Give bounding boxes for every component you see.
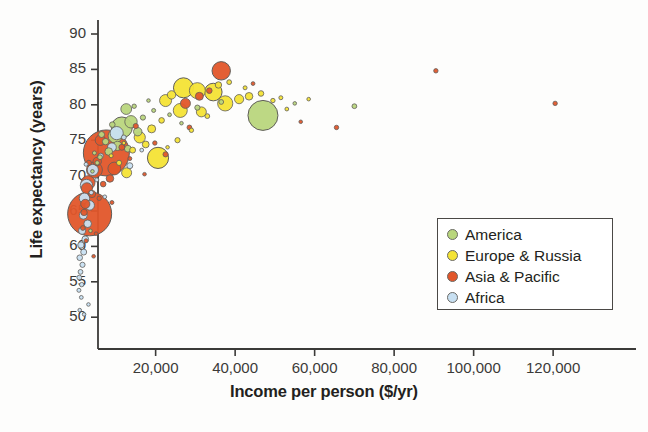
data-bubble — [142, 141, 149, 148]
data-bubble — [219, 100, 224, 105]
data-bubble — [95, 161, 99, 165]
data-bubble — [116, 160, 121, 165]
data-bubble — [553, 101, 557, 105]
data-bubble — [97, 196, 101, 200]
data-bubble — [100, 181, 106, 187]
data-bubble — [212, 62, 230, 80]
data-bubble — [84, 162, 88, 166]
data-bubble — [243, 86, 247, 90]
legend-item-label: Africa — [465, 289, 505, 307]
data-bubble — [279, 96, 283, 100]
legend-item-europe-russia[interactable]: Europe & Russia — [447, 245, 612, 266]
data-bubble — [92, 255, 96, 259]
data-bubble — [110, 201, 114, 205]
data-bubble — [180, 98, 190, 108]
data-bubble — [80, 282, 84, 286]
data-bubble — [245, 93, 253, 101]
data-bubble — [78, 242, 84, 248]
data-bubble — [147, 147, 168, 168]
data-bubble — [106, 175, 114, 183]
data-bubble — [207, 88, 213, 94]
data-bubble — [434, 69, 438, 73]
data-bubble — [189, 128, 193, 132]
data-bubble — [89, 190, 93, 194]
data-bubble — [122, 141, 126, 145]
data-bubble — [84, 239, 88, 243]
data-bubble — [102, 138, 108, 144]
legend-item-asia-pacific[interactable]: Asia & Pacific — [447, 266, 612, 287]
data-bubble — [166, 145, 170, 149]
legend-item-label: Asia & Pacific — [465, 268, 560, 286]
data-bubble — [95, 178, 99, 182]
data-bubble — [168, 113, 172, 117]
chart-legend[interactable]: AmericaEurope & RussiaAsia & PacificAfri… — [437, 218, 613, 310]
data-bubble — [235, 95, 244, 104]
data-bubble — [140, 115, 145, 120]
data-bubble — [110, 122, 116, 128]
data-bubble — [152, 108, 156, 112]
legend-swatch-icon — [447, 250, 458, 261]
data-bubble — [77, 255, 83, 261]
data-bubble — [81, 209, 87, 215]
data-bubble — [251, 82, 255, 86]
data-bubble — [122, 168, 132, 178]
data-bubble — [127, 163, 133, 169]
data-bubble — [87, 303, 91, 307]
data-bubble — [92, 151, 96, 155]
data-bubble — [215, 82, 221, 88]
data-bubble — [334, 125, 338, 129]
data-bubble — [143, 172, 147, 176]
data-bubble — [81, 199, 90, 208]
data-bubble — [227, 80, 232, 85]
data-bubble — [195, 92, 203, 100]
chart-canvas: Life expectancy (years) Income per perso… — [0, 0, 648, 432]
data-bubble — [175, 138, 180, 143]
legend-item-label: Europe & Russia — [465, 247, 581, 265]
data-bubble — [98, 155, 103, 160]
data-bubble — [78, 269, 83, 274]
data-bubble — [352, 104, 357, 109]
data-bubble — [299, 120, 303, 124]
data-bubble — [153, 141, 157, 145]
legend-swatch-icon — [447, 271, 458, 282]
data-bubble — [293, 102, 297, 106]
data-bubble — [128, 157, 132, 161]
data-bubble — [80, 262, 85, 267]
data-bubble — [159, 118, 165, 124]
data-bubble — [133, 123, 138, 128]
data-bubble — [89, 229, 93, 233]
data-bubble — [121, 135, 126, 140]
legend-item-america[interactable]: America — [447, 224, 612, 245]
data-bubble — [148, 125, 156, 133]
data-bubble — [132, 104, 136, 108]
data-bubble — [81, 249, 87, 255]
data-bubble — [80, 226, 85, 231]
data-bubble — [130, 147, 136, 153]
data-bubble — [94, 232, 98, 236]
data-bubble — [82, 313, 86, 317]
data-bubble — [77, 288, 81, 292]
data-bubble — [103, 195, 107, 199]
data-bubble — [147, 99, 151, 103]
data-bubble — [205, 114, 210, 119]
data-bubble — [285, 107, 289, 111]
data-bubble — [140, 148, 144, 152]
data-bubble — [91, 170, 95, 174]
data-bubble — [248, 100, 278, 130]
legend-item-label: America — [465, 226, 522, 244]
data-bubble — [79, 295, 83, 299]
data-bubble — [121, 104, 132, 115]
data-bubble — [99, 132, 105, 138]
data-bubble — [180, 121, 184, 125]
data-bubble — [271, 98, 275, 102]
data-bubble — [307, 97, 311, 101]
legend-item-africa[interactable]: Africa — [447, 287, 612, 308]
data-bubble — [163, 152, 168, 157]
legend-swatch-icon — [447, 292, 458, 303]
data-bubble — [258, 91, 264, 97]
scatter-plot-area — [0, 0, 648, 432]
legend-swatch-icon — [447, 229, 458, 240]
data-bubble — [167, 91, 175, 99]
data-bubble — [195, 105, 200, 110]
data-bubble — [77, 275, 82, 280]
